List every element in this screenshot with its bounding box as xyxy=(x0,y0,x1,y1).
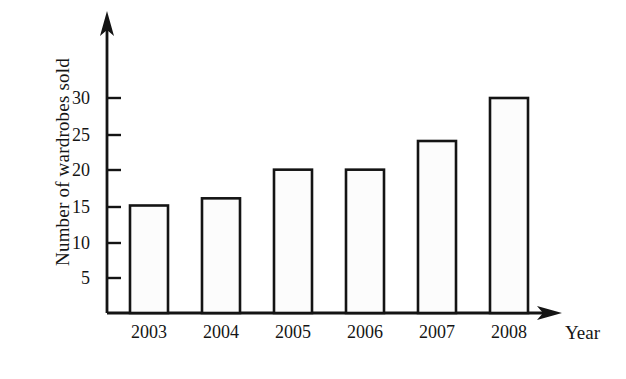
bar-2004 xyxy=(202,198,240,313)
bar-2006 xyxy=(346,170,384,313)
bar-2005 xyxy=(274,170,312,313)
bar-chart-figure: Number of wardrobes sold 5 10 15 20 25 3… xyxy=(0,0,626,379)
bar-2007 xyxy=(418,141,456,313)
bars-group xyxy=(130,98,528,313)
plot-area xyxy=(0,0,626,379)
bar-2003 xyxy=(130,206,168,314)
bar-2008 xyxy=(490,98,528,313)
